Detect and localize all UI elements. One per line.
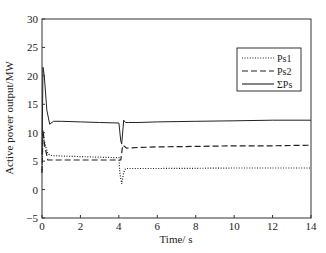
- x-tick-label: 8: [193, 220, 199, 232]
- series-line-ps2: [42, 130, 311, 173]
- legend-label: Ps2: [277, 66, 291, 77]
- x-tick-label: 10: [229, 220, 241, 232]
- x-tick-label: 14: [306, 220, 318, 232]
- axis-ticks: 02468101214−5051015202530: [26, 13, 317, 232]
- x-tick-label: 4: [116, 220, 122, 232]
- legend-label: ΣPs: [277, 79, 292, 90]
- x-tick-label: 0: [39, 220, 45, 232]
- series-line-ps1: [42, 133, 311, 184]
- y-tick-label: 25: [27, 41, 39, 53]
- x-tick-label: 12: [267, 220, 278, 232]
- x-tick-label: 6: [155, 220, 161, 232]
- y-tick-label: −5: [26, 212, 38, 224]
- y-tick-label: 30: [27, 13, 39, 25]
- y-tick-label: 20: [27, 70, 39, 82]
- line-chart: 02468101214−5051015202530 Active power o…: [0, 0, 326, 253]
- y-axis-label: Active power output/MW: [3, 61, 15, 175]
- y-tick-label: 15: [27, 98, 39, 110]
- legend: Ps1Ps2ΣPs: [237, 48, 301, 91]
- y-tick-label: 5: [33, 155, 39, 167]
- x-tick-label: 2: [78, 220, 84, 232]
- legend-label: Ps1: [277, 53, 291, 64]
- y-tick-label: 10: [27, 127, 39, 139]
- y-tick-label: 0: [33, 184, 39, 196]
- x-axis-label: Time/ s: [160, 233, 193, 245]
